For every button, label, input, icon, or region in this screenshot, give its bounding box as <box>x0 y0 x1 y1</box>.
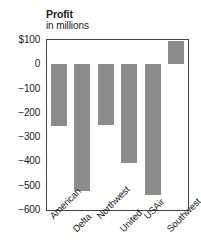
x-tick-label: Delta <box>71 212 93 234</box>
bar-usair <box>145 64 161 195</box>
y-tick-label: −600 <box>18 205 40 215</box>
bar-american <box>51 64 67 126</box>
profit-bar-chart: Profit in millions $1000−100−200−300−400… <box>0 0 201 250</box>
bar-southwest <box>168 41 184 64</box>
bars-layer <box>47 40 188 210</box>
y-tick-label: −500 <box>18 181 40 191</box>
y-tick-label: $100 <box>19 35 40 45</box>
y-tick-label: 0 <box>35 59 40 69</box>
chart-title: Profit <box>46 8 89 20</box>
y-tick-label: −100 <box>18 84 40 94</box>
bar-delta <box>74 64 90 190</box>
y-tick-label: −300 <box>18 132 40 142</box>
y-tick-label: −400 <box>18 156 40 166</box>
y-tick-label: −200 <box>18 108 40 118</box>
y-axis: $1000−100−200−300−400−500−600 <box>0 39 43 211</box>
bar-united <box>121 64 137 162</box>
x-axis-labels: AmericanDeltaNorthwestUnitedUSAirSouthwe… <box>46 211 189 250</box>
x-tick-label: United <box>118 208 144 234</box>
chart-subtitle: in millions <box>46 20 89 32</box>
chart-title-block: Profit in millions <box>46 8 89 32</box>
bar-northwest <box>98 64 114 125</box>
